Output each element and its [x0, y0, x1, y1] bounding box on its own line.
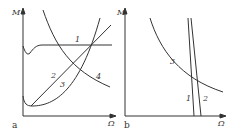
panel-a-label-1: 1 — [75, 36, 80, 44]
diagram-canvas — [0, 0, 238, 134]
panel-b-label-3: 3 — [170, 58, 175, 66]
panel-b-curve-3 — [150, 18, 223, 92]
panel-a-sublabel: a — [12, 121, 17, 130]
panel-a-curve-1 — [23, 45, 112, 54]
panel-a-label-3: 3 — [60, 81, 65, 89]
panel-b-ylabel: M — [117, 9, 125, 17]
panel-a-y-arrow — [21, 8, 25, 14]
panel-b-x-arrow — [220, 114, 226, 118]
panel-b-label-2: 2 — [203, 95, 208, 103]
panel-a-xlabel: Ω — [108, 120, 115, 128]
panel-a-ylabel: M — [12, 9, 20, 17]
panel-b-xlabel: Ω — [218, 120, 225, 128]
panel-b-curve-2 — [191, 18, 201, 116]
panel-a-label-2: 2 — [51, 72, 56, 80]
panel-b-label-1: 1 — [186, 95, 191, 103]
panel-a-x-arrow — [110, 114, 116, 118]
panel-a-curve-3 — [23, 18, 100, 106]
panel-b-sublabel: b — [124, 121, 130, 130]
panel-a-curve-2 — [31, 25, 111, 106]
panel-a-label-4: 4 — [96, 73, 101, 81]
